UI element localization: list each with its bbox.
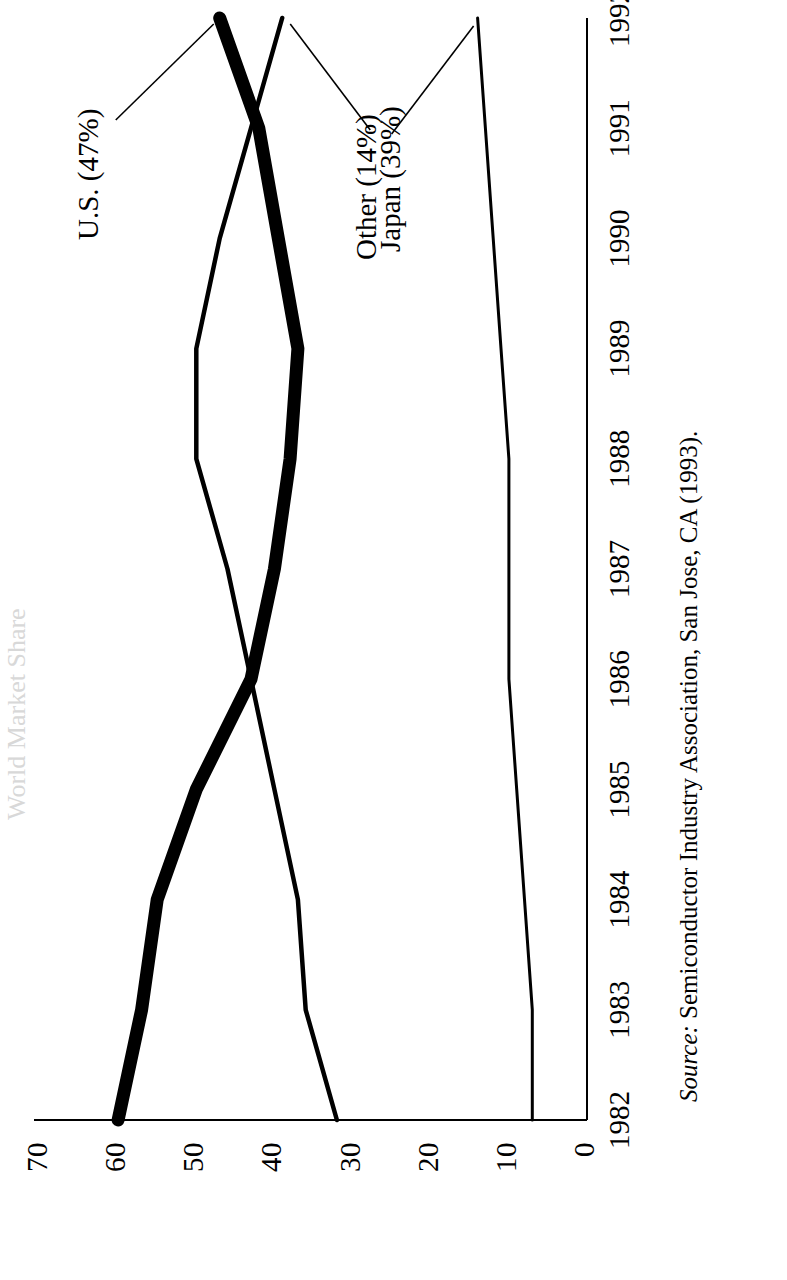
x-tick-1982: 1982: [603, 1065, 636, 1175]
y-tick-50: 50: [177, 1142, 210, 1212]
series-line-us: [118, 18, 298, 1120]
rotated-figure-wrapper: 706050403020100 198219831984198519861987…: [0, 0, 787, 1280]
x-tick-1990: 1990: [603, 183, 636, 293]
x-tick-1985: 1985: [603, 734, 636, 844]
series-line-other: [478, 18, 533, 1120]
y-tick-20: 20: [412, 1142, 445, 1212]
y-tick-60: 60: [99, 1142, 132, 1212]
chart-title: World Market Share: [2, 608, 32, 820]
x-tick-1989: 1989: [603, 294, 636, 404]
x-tick-1992: 1992: [603, 0, 636, 73]
source-note: Source: Semiconductor Industry Associati…: [675, 431, 703, 1102]
chart-figure: 706050403020100 198219831984198519861987…: [0, 0, 787, 1280]
plot-area: 706050403020100 198219831984198519861987…: [0, 0, 640, 1280]
y-tick-10: 10: [490, 1142, 523, 1212]
y-tick-0: 0: [568, 1142, 601, 1212]
series-label-us: U.S. (47%): [72, 109, 105, 240]
x-tick-1983: 1983: [603, 955, 636, 1065]
x-tick-1988: 1988: [603, 404, 636, 514]
y-tick-70: 70: [21, 1142, 54, 1212]
x-tick-1991: 1991: [603, 73, 636, 183]
x-tick-1986: 1986: [603, 624, 636, 734]
y-tick-30: 30: [334, 1142, 367, 1212]
series-label-other: Other (14%): [350, 114, 383, 260]
x-tick-1987: 1987: [603, 514, 636, 624]
source-text: Semiconductor Industry Association, San …: [675, 431, 702, 1019]
source-label: Source:: [675, 1025, 702, 1102]
leader-line-us: [116, 24, 214, 120]
y-tick-40: 40: [255, 1142, 288, 1212]
x-tick-1984: 1984: [603, 845, 636, 955]
